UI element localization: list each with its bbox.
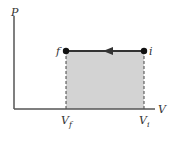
point-f [63,48,69,54]
vf-label: Vf [61,114,74,129]
point-i [141,48,147,54]
point-f-label: f [55,45,62,58]
work-area [66,51,144,109]
vi-label: Vi [139,114,150,129]
pv-diagram: P V f i Vf Vi [0,0,174,142]
y-axis-label: P [10,6,19,19]
x-axis-label: V [158,103,167,116]
point-i-label: i [149,45,153,58]
